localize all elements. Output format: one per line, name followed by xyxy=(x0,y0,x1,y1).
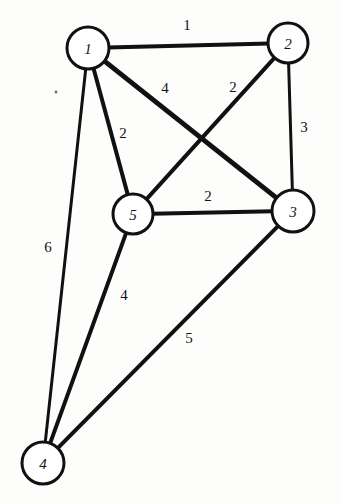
graph-node-5: 5 xyxy=(113,194,153,234)
node-label-5: 5 xyxy=(129,207,137,223)
node-label-3: 3 xyxy=(288,204,297,220)
edge-weight-2-5: 2 xyxy=(229,79,237,95)
graph-edge-2-3 xyxy=(289,61,293,191)
graph-canvas: 12345 142322645 xyxy=(0,0,342,504)
edge-weight-5-3: 2 xyxy=(204,188,212,204)
graph-figure: 12345 142322645 xyxy=(0,0,342,504)
graph-node-2: 2 xyxy=(268,23,308,63)
edge-weight-1-2: 1 xyxy=(183,17,191,33)
edge-weight-3-4: 5 xyxy=(185,330,193,346)
graph-node-3: 3 xyxy=(272,190,314,232)
node-label-2: 2 xyxy=(284,36,292,52)
graph-edge-1-2 xyxy=(107,43,269,47)
edge-weight-5-4: 4 xyxy=(120,287,128,303)
edge-weight-1-4: 6 xyxy=(44,239,52,255)
graph-node-1: 1 xyxy=(67,27,109,69)
graph-edge-5-4 xyxy=(50,231,127,444)
node-label-4: 4 xyxy=(39,456,47,472)
scan-artifacts-layer xyxy=(55,91,58,94)
edge-weight-1-5: 2 xyxy=(119,125,127,141)
edge-weight-2-3: 3 xyxy=(300,119,308,135)
speck-left xyxy=(55,91,58,94)
edge-weight-1-3: 4 xyxy=(161,80,169,96)
graph-edge-5-3 xyxy=(151,211,273,213)
graph-node-4: 4 xyxy=(22,442,64,484)
graph-edge-1-4 xyxy=(45,67,86,443)
edges-layer xyxy=(45,43,292,449)
node-label-1: 1 xyxy=(84,41,92,57)
